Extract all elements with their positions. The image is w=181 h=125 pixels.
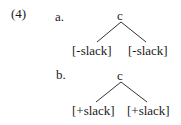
tree-branches bbox=[0, 0, 181, 125]
tree-a-left-branch bbox=[97, 22, 121, 42]
tree-b-right-branch bbox=[121, 82, 147, 102]
tree-a-right-branch bbox=[121, 22, 146, 42]
tree-b-left-branch bbox=[96, 82, 121, 102]
